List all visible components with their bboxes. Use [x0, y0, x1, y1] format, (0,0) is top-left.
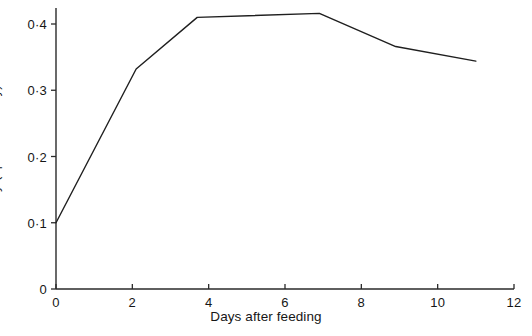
axes-group	[56, 8, 514, 289]
data-series-line	[56, 13, 476, 222]
x-tick-label: 0	[52, 295, 59, 310]
y-tick-label: 0·4	[0, 17, 47, 32]
x-tick-label: 2	[129, 295, 136, 310]
y-tick-label: 0	[0, 282, 47, 297]
y-axis-title: Protease activity (optical density)	[0, 85, 2, 286]
x-tick-label: 6	[281, 295, 288, 310]
x-axis-title: Days after feeding	[210, 309, 321, 324]
y-tick-label: 0·3	[0, 83, 47, 98]
chart-figure: 0·40·30·20·10 024681012 Days after feedi…	[0, 0, 532, 336]
chart-plot-area	[0, 0, 532, 336]
x-tick-label: 12	[507, 295, 522, 310]
x-tick-label: 4	[205, 295, 212, 310]
y-tick-label: 0·1	[0, 215, 47, 230]
y-tick-label: 0·2	[0, 149, 47, 164]
x-tick-label: 10	[430, 295, 445, 310]
tick-marks-group	[51, 24, 514, 289]
x-tick-label: 8	[358, 295, 365, 310]
